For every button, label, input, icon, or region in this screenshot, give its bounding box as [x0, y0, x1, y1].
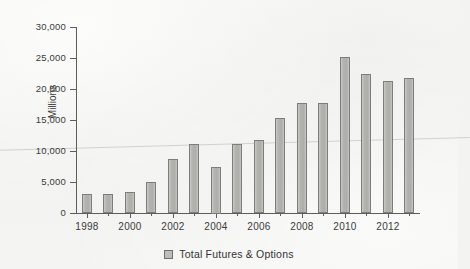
x-tick-label-1998: 1998 — [67, 221, 107, 232]
y-tick-label-0: 0 — [6, 207, 66, 218]
bar-2009 — [318, 103, 328, 213]
y-tick-label-25000: 25,000 — [6, 52, 66, 63]
bar-2010 — [340, 57, 350, 213]
x-tick-2011 — [366, 213, 367, 216]
x-tick-label-2000: 2000 — [110, 221, 150, 232]
x-tick-2009 — [323, 213, 324, 216]
bar-2000 — [125, 192, 135, 213]
bar-2011 — [361, 74, 371, 213]
x-tick-label-2004: 2004 — [196, 221, 236, 232]
bar-2005 — [232, 144, 242, 213]
bar-2006 — [254, 140, 264, 213]
y-tick-label-5000: 5,000 — [6, 176, 66, 187]
x-tick-2005 — [237, 213, 238, 216]
y-tick-label-30000: 30,000 — [6, 21, 66, 32]
y-tick-5000 — [70, 182, 76, 183]
y-tick-25000 — [70, 58, 76, 59]
x-tick-2007 — [280, 213, 281, 216]
y-tick-30000 — [70, 27, 76, 28]
x-tick-1998 — [87, 213, 88, 218]
bar-2003 — [189, 144, 199, 213]
x-tick-2002 — [173, 213, 174, 218]
x-tick-2003 — [194, 213, 195, 216]
bar-1998 — [82, 194, 92, 213]
x-tick-2013 — [409, 213, 410, 216]
y-axis-title: Millions — [47, 62, 58, 142]
y-tick-15000 — [70, 120, 76, 121]
x-tick-1999 — [108, 213, 109, 216]
x-tick-label-2002: 2002 — [153, 221, 193, 232]
y-tick-label-15000: 15,000 — [6, 114, 66, 125]
y-tick-20000 — [70, 89, 76, 90]
bar-1999 — [103, 194, 113, 213]
x-tick-2010 — [345, 213, 346, 218]
x-tick-2000 — [130, 213, 131, 218]
x-tick-label-2008: 2008 — [282, 221, 322, 232]
x-tick-label-2010: 2010 — [325, 221, 365, 232]
y-tick-label-20000: 20,000 — [6, 83, 66, 94]
y-axis-line — [76, 27, 77, 213]
x-tick-2006 — [259, 213, 260, 218]
y-tick-10000 — [70, 151, 76, 152]
legend-label-total-futures-and-options: Total Futures & Options — [179, 248, 293, 260]
x-tick-label-2012: 2012 — [368, 221, 408, 232]
x-tick-2008 — [302, 213, 303, 218]
bar-2008 — [297, 103, 307, 213]
x-tick-2001 — [151, 213, 152, 216]
legend-swatch-total-futures-and-options — [164, 250, 173, 259]
x-axis-line — [76, 213, 420, 214]
x-tick-2012 — [388, 213, 389, 218]
x-tick-label-2006: 2006 — [239, 221, 279, 232]
bar-2013 — [404, 78, 414, 213]
y-tick-0 — [70, 213, 76, 214]
chart-legend: Total Futures & Options — [0, 248, 458, 260]
bar-2007 — [275, 118, 285, 213]
bar-2001 — [146, 182, 156, 213]
bar-2002 — [168, 159, 178, 213]
y-tick-label-10000: 10,000 — [6, 145, 66, 156]
bar-2004 — [211, 167, 221, 214]
bar-2012 — [383, 81, 393, 213]
